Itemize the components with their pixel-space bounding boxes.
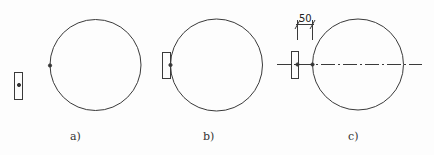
panel-b-label: b) bbox=[203, 130, 214, 143]
panel-b bbox=[163, 19, 263, 111]
panel-a-label: a) bbox=[70, 130, 81, 143]
panel-c bbox=[277, 19, 422, 110]
large-circle bbox=[171, 19, 263, 111]
contact-point bbox=[169, 63, 172, 66]
block-point bbox=[17, 83, 20, 86]
panel-a bbox=[15, 20, 142, 111]
circle-point bbox=[48, 64, 51, 67]
block-point bbox=[296, 63, 299, 66]
panel-c-label: c) bbox=[348, 130, 358, 143]
large-circle bbox=[50, 20, 141, 111]
dimension-label: 50 bbox=[299, 13, 312, 24]
circle-point bbox=[311, 63, 314, 66]
diagram-canvas: a) b) 50 c) bbox=[0, 0, 434, 155]
